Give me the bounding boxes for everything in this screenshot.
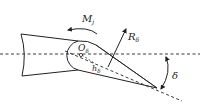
angle-label: δ bbox=[172, 70, 178, 81]
diagram-canvas: Mj Rδ Oδ hδ δ bbox=[0, 0, 200, 108]
deflected-chord-line bbox=[65, 51, 182, 101]
moment-label: Mj bbox=[81, 13, 94, 26]
force-label: Rδ bbox=[127, 31, 140, 43]
force-arrow-icon bbox=[108, 29, 126, 67]
hinge-label: Oδ bbox=[78, 43, 89, 54]
moment-arm-line bbox=[82, 55, 94, 63]
angle-arc-icon bbox=[161, 57, 168, 89]
arm-label: hδ bbox=[92, 64, 101, 74]
fixed-body bbox=[21, 34, 78, 76]
moment-arrow-icon bbox=[68, 29, 97, 34]
